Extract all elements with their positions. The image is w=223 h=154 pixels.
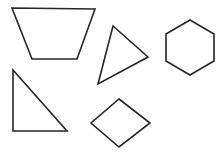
shapes-svg-root bbox=[0, 0, 223, 154]
shapes-diagram-canvas bbox=[0, 0, 223, 154]
